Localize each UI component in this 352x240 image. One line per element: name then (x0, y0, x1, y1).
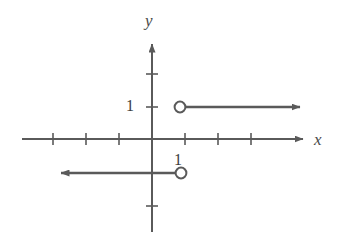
math-graph-figure: y x 1 1 (0, 0, 352, 240)
coordinate-plane (0, 0, 352, 240)
y-axis-label: y (145, 12, 153, 29)
open-point-lower (176, 168, 187, 179)
x-unit-tick-label: 1 (174, 152, 182, 168)
lower-ray-series (61, 168, 186, 179)
y-unit-tick-label: 1 (126, 98, 134, 114)
x-axis (22, 133, 303, 145)
x-axis-label: x (314, 131, 322, 148)
upper-ray-series (175, 102, 300, 113)
open-point-upper (175, 102, 186, 113)
